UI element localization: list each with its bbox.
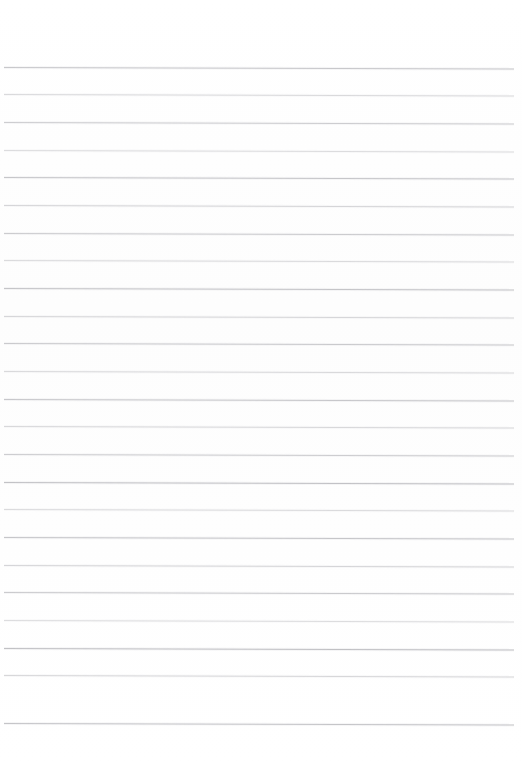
lined-paper-page bbox=[0, 0, 522, 768]
writing-content-area[interactable] bbox=[0, 0, 522, 768]
